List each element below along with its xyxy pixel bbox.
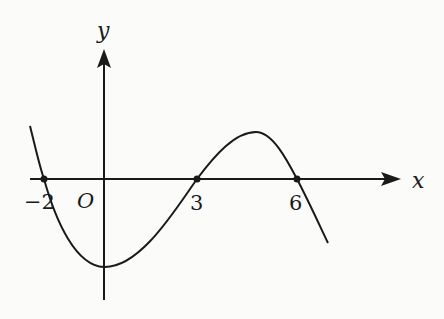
function-curve xyxy=(30,126,328,267)
tick-label-3: 3 xyxy=(190,191,203,215)
tick-label-6: 6 xyxy=(289,191,302,215)
intercept-point-6 xyxy=(294,176,301,183)
function-graph: y x O −2 3 6 xyxy=(0,0,444,319)
intercept-point-3 xyxy=(194,176,201,183)
y-axis-label: y xyxy=(96,18,110,43)
x-axis-label: x xyxy=(412,168,425,193)
tick-label-neg2: −2 xyxy=(24,190,55,214)
origin-label: O xyxy=(77,189,94,213)
intercept-point-neg2 xyxy=(41,176,48,183)
